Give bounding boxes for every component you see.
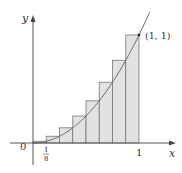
tick-label-one-eighth-numerator: 1 xyxy=(44,146,48,154)
riemann-sum-figure: y x 0 1 8 1 (1, 1) xyxy=(0,0,182,173)
y-axis-label: y xyxy=(21,12,29,25)
x-axis-arrow-icon xyxy=(169,141,176,146)
riemann-rectangle xyxy=(113,60,126,143)
origin-label: 0 xyxy=(20,141,26,152)
tick-label-one: 1 xyxy=(136,147,142,158)
riemann-rectangle xyxy=(86,101,99,143)
y-axis-arrow-icon xyxy=(31,15,36,22)
point-marker xyxy=(138,34,141,37)
tick-label-one-eighth-denominator: 8 xyxy=(44,155,48,163)
point-label: (1, 1) xyxy=(145,30,171,41)
riemann-rectangle xyxy=(126,35,139,143)
riemann-rectangle xyxy=(73,116,86,143)
x-axis-label: x xyxy=(169,147,176,160)
riemann-rectangles xyxy=(33,35,139,143)
